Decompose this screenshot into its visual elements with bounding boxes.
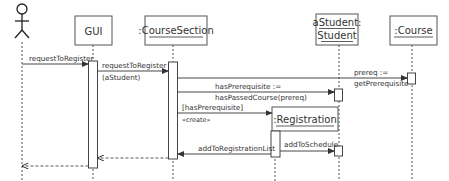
message-label: prereq :=: [354, 68, 388, 77]
object-a-student-label-line1: aStudent:: [313, 17, 362, 28]
message-label: hasPrerequisite :=: [215, 82, 281, 91]
object-course: :Course: [390, 16, 437, 45]
message-request-to-register-a-student: requestToRegister (aStudent): [98, 61, 169, 82]
object-gui-label: GUI: [84, 26, 102, 37]
message-request-to-register: requestToRegister: [22, 54, 94, 64]
message-label-call: getPrerequisite: [354, 79, 409, 88]
sequence-diagram: GUI :CourseSection aStudent: Student :Co…: [0, 0, 449, 181]
object-gui: GUI: [75, 16, 112, 45]
a-student-activation-1: [335, 89, 343, 101]
course-section-activation: [169, 62, 178, 159]
message-create-registration: [hasPrerequisite] «create»: [178, 103, 273, 124]
message-has-passed-course: hasPrerequisite := hasPassedCourse(prere…: [178, 82, 335, 102]
message-label: requestToRegister: [29, 54, 94, 63]
gui-activation: [89, 61, 98, 168]
object-registration-label: :Registration: [273, 114, 337, 125]
message-label-call: hasPassedCourse(prereq): [215, 93, 307, 102]
object-course-section-label: :CourseSection: [138, 25, 213, 36]
message-get-prerequisite: prereq := getPrerequisite: [178, 68, 410, 88]
message-add-to-schedule: addToSchedule: [280, 140, 339, 151]
message-add-to-registration-list: addToRegistrationList: [178, 144, 276, 154]
message-label: requestToRegister: [102, 61, 167, 70]
course-activation: [408, 73, 416, 84]
actor-icon: [15, 4, 29, 38]
message-label: addToRegistrationList: [198, 144, 275, 153]
message-label-args: (aStudent): [102, 73, 141, 82]
message-label: addToSchedule: [284, 140, 339, 149]
object-registration: :Registration: [272, 107, 338, 131]
object-a-student: aStudent: Student: [313, 14, 362, 45]
object-course-section: :CourseSection: [138, 16, 213, 45]
object-course-label: :Course: [394, 25, 432, 36]
message-stereotype: «create»: [182, 116, 211, 124]
object-a-student-label-line2: Student: [317, 30, 356, 41]
message-guard: [hasPrerequisite]: [182, 103, 243, 112]
